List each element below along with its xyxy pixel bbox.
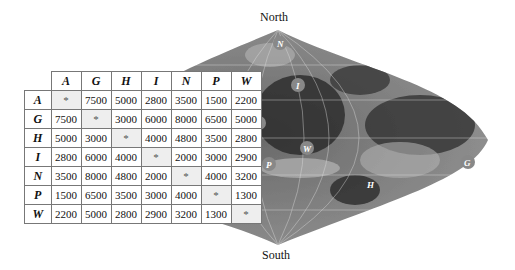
- row-header: H: [25, 129, 52, 148]
- row-header: N: [25, 167, 52, 186]
- table-cell: 3000: [81, 129, 111, 148]
- table-cell: 4000: [141, 129, 171, 148]
- table-cell: 5000: [51, 129, 81, 148]
- table-cell: 5000: [111, 91, 141, 110]
- map-label-p: P: [262, 157, 276, 171]
- table-row: G 7500 * 3000 6000 8000 6500 5000: [25, 110, 262, 129]
- table-cell: 4800: [171, 129, 201, 148]
- table-cell: 6500: [201, 110, 231, 129]
- map-label-w: W: [300, 141, 314, 155]
- table-cell: 2800: [111, 205, 141, 224]
- column-header: A: [51, 72, 81, 91]
- svg-text:N: N: [276, 39, 284, 49]
- row-header: A: [25, 91, 52, 110]
- table-cell: 1300: [201, 205, 231, 224]
- table-cell: *: [111, 129, 141, 148]
- svg-text:G: G: [464, 158, 471, 168]
- row-header: P: [25, 186, 52, 205]
- table-cell: 8000: [81, 167, 111, 186]
- table-cell: 4800: [111, 167, 141, 186]
- table-cell: 2000: [171, 148, 201, 167]
- table-cell: 2900: [141, 205, 171, 224]
- svg-text:W: W: [303, 144, 312, 154]
- table-cell: 2200: [231, 91, 261, 110]
- map-label-g: G: [461, 155, 475, 169]
- column-header: P: [201, 72, 231, 91]
- table-cell: 5000: [231, 110, 261, 129]
- table-cell: *: [81, 110, 111, 129]
- table-cell: 2800: [51, 148, 81, 167]
- table-cell: 3000: [111, 110, 141, 129]
- table-row: W 2200 5000 2800 2900 3200 1300 *: [25, 205, 262, 224]
- table-cell: *: [231, 205, 261, 224]
- column-header: G: [81, 72, 111, 91]
- table-cell: 1300: [231, 186, 261, 205]
- table-cell: 4000: [111, 148, 141, 167]
- table-cell: 2800: [231, 129, 261, 148]
- table-cell: *: [141, 148, 171, 167]
- row-header: G: [25, 110, 52, 129]
- row-header: I: [25, 148, 52, 167]
- table-cell: 6500: [81, 186, 111, 205]
- table-cell: 1500: [51, 186, 81, 205]
- column-header: N: [171, 72, 201, 91]
- table-cell: 6000: [81, 148, 111, 167]
- svg-text:H: H: [366, 180, 375, 190]
- table-cell: 7500: [51, 110, 81, 129]
- table-cell: 2800: [141, 91, 171, 110]
- table-cell: 3000: [141, 186, 171, 205]
- table-cell: 4000: [201, 167, 231, 186]
- table-cell: 3500: [111, 186, 141, 205]
- table-cell: 3500: [51, 167, 81, 186]
- table-cell: 4000: [171, 186, 201, 205]
- table-cell: 2200: [51, 205, 81, 224]
- row-header: W: [25, 205, 52, 224]
- table-cell: *: [201, 186, 231, 205]
- svg-text:I: I: [295, 81, 300, 91]
- map-label-h: H: [366, 180, 375, 190]
- column-header: W: [231, 72, 261, 91]
- table-row: A * 7500 5000 2800 3500 1500 2200: [25, 91, 262, 110]
- table-header-row: A G H I N P W: [25, 72, 262, 91]
- table-cell: 3200: [231, 167, 261, 186]
- table-cell: 6000: [141, 110, 171, 129]
- table-cell: 3000: [201, 148, 231, 167]
- table-row: N 3500 8000 4800 2000 * 4000 3200: [25, 167, 262, 186]
- table-cell: 3500: [201, 129, 231, 148]
- map-label-n: N: [273, 36, 287, 50]
- table-cell: 7500: [81, 91, 111, 110]
- column-header: H: [111, 72, 141, 91]
- table-cell: 1500: [201, 91, 231, 110]
- table-cell: 3200: [171, 205, 201, 224]
- map-label-i: I: [291, 78, 305, 92]
- table-corner: [25, 72, 52, 91]
- table-cell: *: [51, 91, 81, 110]
- table-row: P 1500 6500 3500 3000 4000 * 1300: [25, 186, 262, 205]
- table-row: I 2800 6000 4000 * 2000 3000 2900: [25, 148, 262, 167]
- table-cell: 5000: [81, 205, 111, 224]
- table-cell: 3500: [171, 91, 201, 110]
- distance-table: A G H I N P W A * 7500 5000 2800 3500 15…: [24, 71, 262, 224]
- table-cell: *: [171, 167, 201, 186]
- column-header: I: [141, 72, 171, 91]
- table-cell: 8000: [171, 110, 201, 129]
- table-cell: 2000: [141, 167, 171, 186]
- table-row: H 5000 3000 * 4000 4800 3500 2800: [25, 129, 262, 148]
- svg-text:P: P: [266, 160, 272, 170]
- table-cell: 2900: [231, 148, 261, 167]
